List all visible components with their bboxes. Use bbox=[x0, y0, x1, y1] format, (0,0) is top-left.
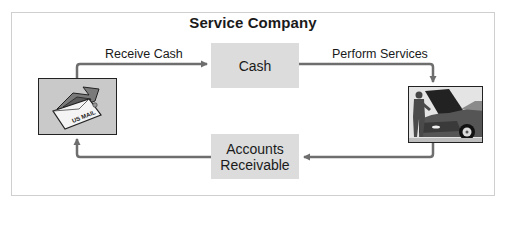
node-ar-line1: Accounts bbox=[220, 141, 289, 157]
edge-label-receive-cash: Receive Cash bbox=[105, 47, 183, 61]
node-cash: Cash bbox=[211, 43, 299, 88]
arrow-perform-services bbox=[299, 64, 433, 82]
node-accounts-receivable: Accounts Receivable bbox=[211, 134, 299, 179]
node-ar-line2: Receivable bbox=[220, 157, 289, 173]
car-mechanic-icon bbox=[409, 87, 483, 143]
mail-envelope-icon: US MAIL bbox=[39, 79, 117, 135]
arrow-to-accounts-receivable bbox=[304, 143, 433, 157]
mail-envelope-image: US MAIL bbox=[38, 78, 117, 135]
mechanic-car-image bbox=[408, 86, 483, 143]
node-cash-label: Cash bbox=[239, 58, 272, 74]
edge-label-perform-services: Perform Services bbox=[332, 47, 428, 61]
arrow-to-mail bbox=[77, 139, 211, 157]
arrow-receive-cash bbox=[77, 64, 207, 78]
